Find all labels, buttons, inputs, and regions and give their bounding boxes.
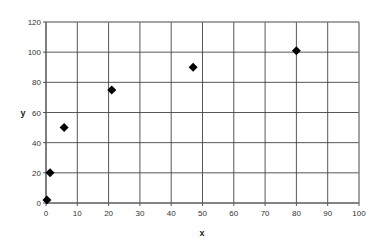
x-tick-label: 10 <box>73 209 82 218</box>
x-tick-label: 70 <box>261 209 270 218</box>
y-tick-label: 100 <box>28 48 42 57</box>
y-tick-label: 120 <box>28 18 42 27</box>
x-tick-label: 100 <box>352 209 366 218</box>
y-tick-label: 60 <box>32 109 41 118</box>
x-tick-label: 50 <box>198 209 207 218</box>
y-tick-label: 20 <box>32 169 41 178</box>
x-axis-ticks: 0102030405060708090100 <box>44 203 366 218</box>
gridlines <box>46 22 359 203</box>
data-point-diamond <box>60 123 69 132</box>
x-tick-label: 90 <box>323 209 332 218</box>
data-point-diamond <box>292 46 301 55</box>
y-tick-label: 0 <box>37 199 42 208</box>
x-tick-label: 60 <box>229 209 238 218</box>
y-tick-label: 40 <box>32 139 41 148</box>
x-axis-label: x <box>199 228 204 238</box>
x-tick-label: 40 <box>167 209 176 218</box>
x-tick-label: 20 <box>104 209 113 218</box>
y-axis-label: y <box>20 108 25 118</box>
x-tick-label: 30 <box>135 209 144 218</box>
data-points <box>42 46 300 204</box>
x-tick-label: 0 <box>44 209 49 218</box>
data-point-diamond <box>189 63 198 72</box>
y-axis-ticks: 020406080100120 <box>28 18 46 208</box>
y-tick-label: 80 <box>32 78 41 87</box>
x-tick-label: 80 <box>292 209 301 218</box>
data-point-diamond <box>46 168 55 177</box>
scatter-chart: 020406080100120 0102030405060708090100 x… <box>0 0 384 247</box>
